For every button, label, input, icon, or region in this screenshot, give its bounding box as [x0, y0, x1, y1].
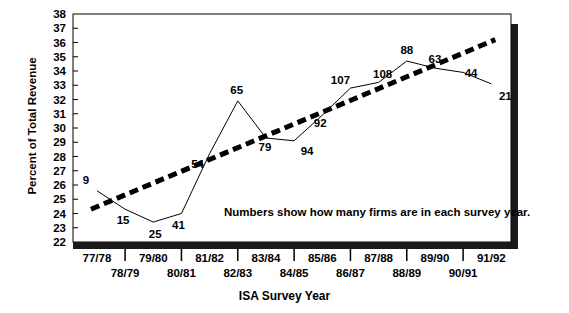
data-point-label: 44 [465, 67, 478, 79]
x-tick-marks [125, 249, 463, 261]
data-point-label: 15 [117, 214, 130, 226]
data-point-label: 88 [400, 44, 413, 56]
data-point-label: 25 [149, 228, 162, 240]
data-point-label: 92 [314, 117, 327, 129]
data-point-label: 54 [191, 158, 204, 170]
data-point-label: 94 [301, 145, 314, 157]
chart-figure: Percent of Total Revenue ISA Survey Year… [0, 0, 569, 313]
data-point-label: 65 [230, 84, 243, 96]
data-point-label: 63 [429, 53, 442, 65]
data-point-label: 108 [373, 68, 392, 80]
data-point-label: 21 [499, 90, 512, 102]
chart-annotation: Numbers show how many firms are in each … [224, 206, 530, 218]
plot-area [0, 0, 569, 313]
x-axis-bar [73, 242, 518, 249]
data-point-label: 9 [83, 174, 89, 186]
data-point-label: 41 [172, 219, 185, 231]
data-point-label: 107 [331, 74, 350, 86]
data-point-label: 79 [259, 141, 272, 153]
